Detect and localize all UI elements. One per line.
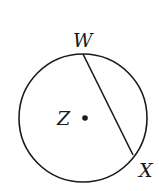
label-x: X	[137, 159, 154, 181]
label-z: Z	[56, 107, 71, 129]
center-point-z	[82, 115, 88, 121]
label-w: W	[73, 29, 94, 51]
circle-diagram: W Z X	[0, 0, 159, 191]
